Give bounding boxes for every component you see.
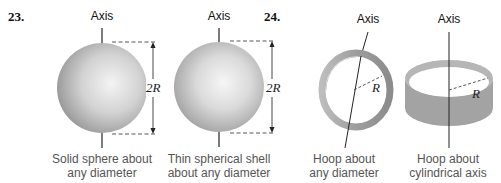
- dimension-label-spherical-shell: 2R: [266, 80, 280, 96]
- caption-hoop-cylindrical: Hoop about cylindrical axis: [409, 152, 486, 180]
- problem-number-24: 24.: [264, 9, 280, 25]
- caption-line: Hoop about: [409, 152, 486, 166]
- dimension-label-solid-sphere: 2R: [146, 80, 160, 96]
- dimension-label-hoop-diameter: R: [372, 80, 380, 96]
- problem-number-23: 23.: [8, 9, 24, 25]
- solid-sphere: [57, 28, 156, 148]
- caption-line: Thin spherical shell: [168, 152, 271, 166]
- caption-line: any diameter: [309, 166, 378, 180]
- axis-label-hoop-diameter: Axis: [357, 12, 380, 26]
- thin-spherical-shell: [174, 28, 275, 147]
- caption-spherical-shell: Thin spherical shell about any diameter: [168, 152, 271, 180]
- caption-hoop-diameter: Hoop about any diameter: [309, 152, 378, 180]
- caption-line: Hoop about: [309, 152, 378, 166]
- caption-line: cylindrical axis: [409, 166, 486, 180]
- axis-label-solid-sphere: Axis: [91, 9, 114, 23]
- axis-label-spherical-shell: Axis: [208, 9, 231, 23]
- caption-line: any diameter: [52, 166, 152, 180]
- axis-label-hoop-cylindrical: Axis: [438, 12, 461, 26]
- caption-line: Solid sphere about: [52, 152, 152, 166]
- caption-solid-sphere: Solid sphere about any diameter: [52, 152, 152, 180]
- caption-line: about any diameter: [168, 166, 271, 180]
- dimension-label-hoop-cylindrical: R: [472, 86, 480, 102]
